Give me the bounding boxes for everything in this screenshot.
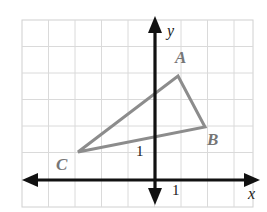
plot-canvas <box>0 0 267 212</box>
coordinate-plane-figure: A B C y x 1 1 <box>0 0 267 212</box>
vertex-label-c: C <box>56 156 67 173</box>
x-axis-unit-label: 1 <box>172 183 180 198</box>
x-axis-label: x <box>248 186 255 202</box>
vertex-label-a: A <box>175 49 186 66</box>
y-axis-unit-label: 1 <box>136 144 144 159</box>
y-axis-label: y <box>167 23 174 39</box>
vertex-label-b: B <box>207 131 218 148</box>
